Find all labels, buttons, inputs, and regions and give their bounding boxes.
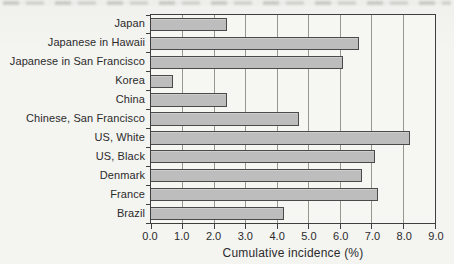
category-label: Chinese, San Francisco [6,109,150,128]
plot-area [150,14,436,224]
category-label: France [6,184,150,203]
category-label: Japan [6,14,150,33]
x-axis-tick-labels: 0.01.02.03.04.05.06.07.08.09.0 [150,230,436,243]
x-tick-label: 2.0 [206,230,221,242]
x-tick-label: 1.0 [174,230,189,242]
x-tick-label: 3.0 [238,230,253,242]
bar-series [151,15,435,223]
bar [151,188,378,201]
x-tick [371,224,372,229]
category-label: Denmark [6,165,150,184]
y-tick [146,185,151,186]
bar-row [151,110,435,129]
y-tick [146,204,151,205]
bar [151,37,359,50]
category-label: US, Black [6,146,150,165]
x-tick [277,224,278,229]
y-tick [146,15,151,16]
y-tick [146,109,151,110]
x-tick [435,224,436,229]
bar-row [151,185,435,204]
bar-row [151,204,435,223]
category-label: Japanese in San Francisco [6,52,150,71]
y-axis-category-labels: JapanJapanese in HawaiiJapanese in San F… [6,14,150,222]
bar [151,18,227,31]
x-tick-label: 9.0 [428,230,443,242]
x-tick-label: 5.0 [301,230,316,242]
y-tick [146,147,151,148]
x-tick-label: 6.0 [333,230,348,242]
x-axis-title: Cumulative incidence (%) [150,246,436,260]
bar [151,75,173,88]
x-tick [151,224,152,229]
bar [151,131,410,144]
y-tick [146,90,151,91]
x-tick [340,224,341,229]
x-tick-label: 0.0 [142,230,157,242]
bar-row [151,128,435,147]
scanned-chart-page: JapanJapanese in HawaiiJapanese in San F… [0,0,454,264]
y-tick [146,33,151,34]
bar [151,150,375,163]
y-tick [146,52,151,53]
y-tick [146,71,151,72]
bar [151,112,299,125]
category-label: Brazil [6,203,150,222]
category-label: Korea [6,71,150,90]
bar-chart: JapanJapanese in HawaiiJapanese in San F… [6,14,448,260]
category-label: US, White [6,127,150,146]
category-label: China [6,90,150,109]
category-label: Japanese in Hawaii [6,33,150,52]
x-tick [182,224,183,229]
bar [151,56,343,69]
x-tick [308,224,309,229]
chart-body: JapanJapanese in HawaiiJapanese in San F… [6,14,448,224]
bar [151,93,227,106]
bar-row [151,15,435,34]
x-tick-label: 7.0 [365,230,380,242]
x-tick [245,224,246,229]
scan-artifact-cropped-text [3,1,451,5]
x-tick-label: 8.0 [397,230,412,242]
x-tick-label: 4.0 [269,230,284,242]
bar-row [151,72,435,91]
bar-row [151,53,435,72]
bar-row [151,34,435,53]
bar-row [151,91,435,110]
y-tick [146,128,151,129]
x-tick [403,224,404,229]
bar [151,169,362,182]
y-tick [146,166,151,167]
bar-row [151,147,435,166]
bar-row [151,166,435,185]
x-tick [214,224,215,229]
bar [151,207,284,220]
